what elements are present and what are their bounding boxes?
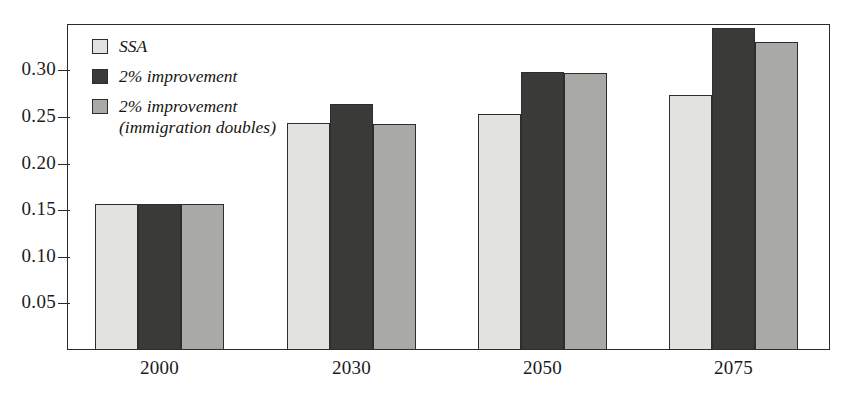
bar-2000-series-2 xyxy=(181,204,224,350)
legend-label: 2% improvement (immigration doubles) xyxy=(119,96,276,138)
bar-2050-series-2 xyxy=(564,73,607,350)
legend-swatch-icon xyxy=(92,99,108,114)
x-axis-tick-label: 2050 xyxy=(483,357,603,379)
legend-swatch-icon xyxy=(92,69,108,84)
legend-swatch-icon xyxy=(92,39,108,54)
x-axis-tick-label: 2030 xyxy=(292,357,412,379)
bar-2075-series-1 xyxy=(712,28,755,350)
bar-2050-series-0 xyxy=(478,114,521,350)
bar-2075-series-0 xyxy=(669,95,712,350)
chart-legend: SSA2% improvement2% improvement (immigra… xyxy=(92,36,342,147)
legend-item: SSA xyxy=(92,36,342,57)
x-axis-tick-label: 2075 xyxy=(674,357,794,379)
bar-2050-series-1 xyxy=(521,72,564,350)
legend-item: 2% improvement xyxy=(92,66,342,87)
bar-chart: 0.050.100.150.200.250.30 200020302050207… xyxy=(0,0,850,394)
bar-2000-series-1 xyxy=(138,204,181,350)
bar-2000-series-0 xyxy=(95,204,138,350)
x-axis-tick-label: 2000 xyxy=(100,357,220,379)
legend-item: 2% improvement (immigration doubles) xyxy=(92,96,342,138)
legend-label: 2% improvement xyxy=(119,66,237,87)
bar-2030-series-0 xyxy=(287,123,330,350)
bar-2075-series-2 xyxy=(755,42,798,350)
bar-2030-series-2 xyxy=(373,124,416,350)
legend-label: SSA xyxy=(119,36,147,57)
